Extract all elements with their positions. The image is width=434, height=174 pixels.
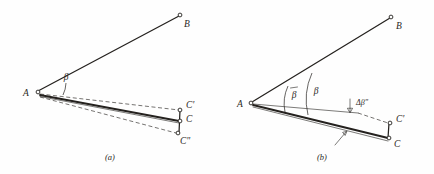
segment-a-AC-double-prime-dashed: [40, 97, 176, 133]
segment-a-AC: [40, 95, 179, 121]
label-a-point-C: C: [186, 114, 193, 124]
node-a-C: [178, 119, 182, 123]
label-b-angle-beta-bar: β: [291, 90, 297, 100]
panel-a: A B C' C C" β (a): [22, 13, 195, 162]
angle-arc-a-beta: [63, 83, 66, 95]
panel-b: A B C' C β β Δβ" (b): [236, 15, 405, 162]
node-b-B: [389, 15, 393, 19]
segment-a-AB: [38, 16, 179, 91]
node-b-C: [387, 136, 391, 140]
label-b-point-B: B: [396, 21, 402, 31]
label-b-point-C: C: [394, 139, 401, 149]
label-a-point-C-prime: C': [186, 100, 195, 110]
label-a-point-C-double-prime: C": [180, 136, 191, 146]
figure-svg: A B C' C C" β (a): [0, 0, 434, 174]
label-a-point-B: B: [184, 19, 190, 29]
caption-b: (b): [317, 152, 327, 162]
label-b-point-A: A: [236, 99, 243, 109]
node-a-C-double-prime: [176, 131, 180, 135]
label-b-angle-beta: β: [313, 86, 319, 96]
segment-b-AC-prime-dashed: [358, 113, 388, 123]
node-a-B: [178, 13, 182, 17]
caption-a: (a): [105, 152, 115, 162]
label-b-delta-beta-double-prime: Δβ": [355, 98, 369, 107]
label-b-point-C-prime: C': [396, 114, 405, 124]
node-b-A: [249, 101, 253, 105]
figure-container: A B C' C C" β (a): [0, 0, 434, 174]
angle-arc-b-beta-bar: [284, 86, 288, 112]
node-a-A: [36, 90, 40, 94]
label-a-point-A: A: [22, 88, 29, 98]
label-a-angle-beta: β: [63, 72, 69, 82]
segment-b-AB: [252, 18, 390, 102]
node-b-C-prime: [388, 121, 392, 125]
node-a-C-prime: [178, 108, 182, 112]
segment-b-AC-underline: [253, 107, 388, 141]
segment-a-AC-underline: [40, 97, 179, 124]
overbar-b-beta-bar: [291, 87, 298, 88]
